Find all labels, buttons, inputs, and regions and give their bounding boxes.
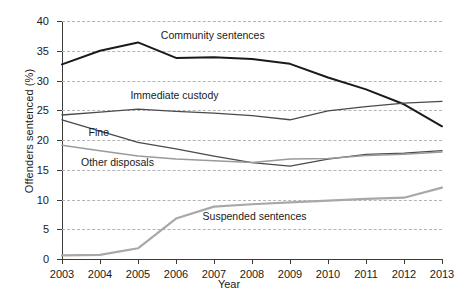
series-layer <box>62 21 442 259</box>
y-axis-tick-label: 5 <box>43 223 49 235</box>
plot-area: 0510152025303540 20032004200520062007200… <box>62 21 442 259</box>
y-axis-tick-label: 35 <box>37 45 49 57</box>
x-axis-tick <box>290 259 291 264</box>
x-axis-tick <box>328 259 329 264</box>
y-axis-tick-label: 0 <box>43 253 49 265</box>
series-label: Immediate custody <box>130 89 218 101</box>
line-chart: Offenders sentenced (%) Year 05101520253… <box>0 0 458 300</box>
x-axis-tick <box>100 259 101 264</box>
x-axis-tick <box>366 259 367 264</box>
x-axis-tick-label: 2003 <box>50 268 74 280</box>
x-axis-tick-label: 2004 <box>88 268 112 280</box>
y-axis-tick-label: 15 <box>37 164 49 176</box>
x-axis-tick <box>214 259 215 264</box>
y-axis-tick-label: 40 <box>37 15 49 27</box>
x-axis-tick <box>442 259 443 264</box>
series-label: Fine <box>89 126 109 138</box>
x-axis-tick <box>252 259 253 264</box>
x-axis-tick <box>176 259 177 264</box>
x-axis-tick-label: 2013 <box>430 268 454 280</box>
y-axis-tick-label: 30 <box>37 75 49 87</box>
series-line <box>62 42 442 126</box>
x-axis-tick-label: 2008 <box>240 268 264 280</box>
series-label: Suspended sentences <box>203 210 307 222</box>
x-axis-tick-label: 2010 <box>316 268 340 280</box>
y-axis-tick-label: 10 <box>37 194 49 206</box>
x-axis-tick-label: 2011 <box>354 268 378 280</box>
x-axis-tick <box>404 259 405 264</box>
x-axis-tick-label: 2009 <box>278 268 302 280</box>
x-axis-tick-label: 2006 <box>164 268 188 280</box>
x-axis-tick <box>138 259 139 264</box>
y-axis-tick-label: 20 <box>37 134 49 146</box>
series-label: Other disposals <box>81 156 154 168</box>
x-axis-tick-label: 2007 <box>202 268 226 280</box>
y-axis-tick-label: 25 <box>37 104 49 116</box>
y-axis-title: Offenders sentenced (%) <box>23 21 35 241</box>
x-axis-tick-label: 2005 <box>126 268 150 280</box>
series-line <box>62 101 442 119</box>
x-axis-tick-label: 2012 <box>392 268 416 280</box>
series-label: Community sentences <box>161 29 265 41</box>
x-axis-tick <box>62 259 63 264</box>
